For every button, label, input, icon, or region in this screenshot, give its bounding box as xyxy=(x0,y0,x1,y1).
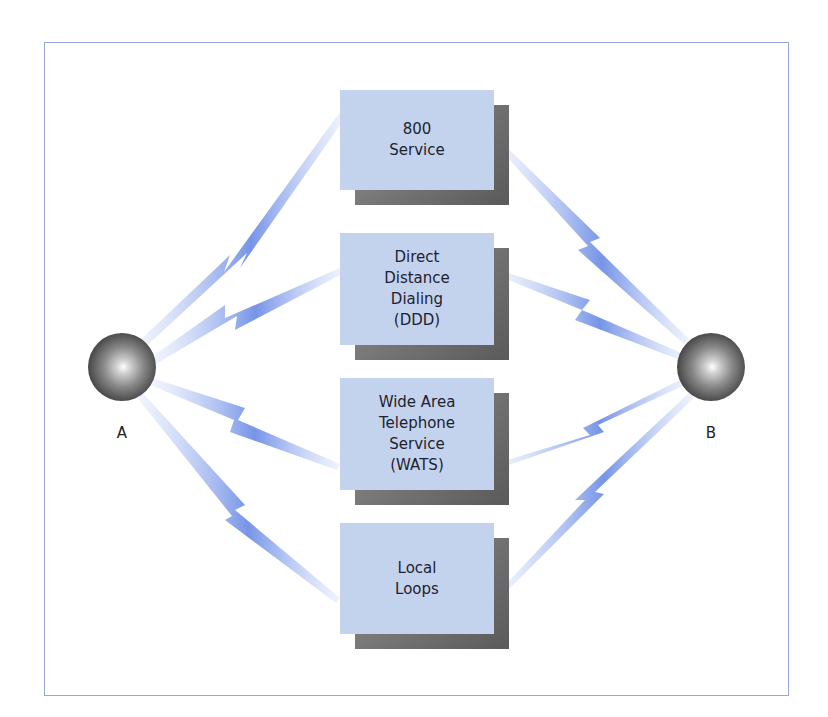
link-a-ddd xyxy=(150,268,342,365)
node-b-sphere-icon xyxy=(677,333,745,401)
link-a-wats xyxy=(150,378,340,470)
service-label: 800 Service xyxy=(340,90,494,190)
link-800-b xyxy=(494,135,690,344)
node-b-label: B xyxy=(701,424,721,442)
service-label: Wide Area Telephone Service (WATS) xyxy=(340,378,494,490)
service-label: Local Loops xyxy=(340,523,494,634)
node-a-label: A xyxy=(112,424,132,442)
service-label: Direct Distance Dialing (DDD) xyxy=(340,233,494,345)
node-a-sphere-icon xyxy=(88,333,156,401)
